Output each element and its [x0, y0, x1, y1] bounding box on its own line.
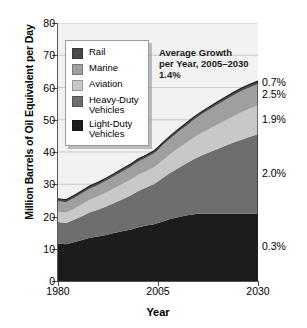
- legend-item-label: Heavy-Duty Vehicles: [89, 95, 139, 115]
- legend-item-label: Rail: [89, 47, 105, 57]
- chart-legend: RailMarineAviationHeavy-Duty VehiclesLig…: [65, 40, 149, 146]
- legend-item: Light-Duty Vehicles: [72, 119, 139, 139]
- growth-rate-label: 1.9%: [262, 114, 286, 125]
- y-tick-label: 20: [29, 212, 55, 222]
- x-tick-label: 1980: [36, 286, 80, 297]
- legend-item-label: Marine: [89, 63, 118, 73]
- legend-item: Aviation: [72, 79, 139, 91]
- legend-swatch-icon: [72, 80, 83, 91]
- legend-swatch-icon: [72, 120, 83, 131]
- growth-rate-label: 0.7%: [262, 77, 286, 88]
- y-tick-label: 50: [29, 115, 55, 125]
- legend-item-label: Light-Duty Vehicles: [89, 119, 132, 139]
- x-tick-label: 2030: [236, 286, 280, 297]
- legend-item: Heavy-Duty Vehicles: [72, 95, 139, 115]
- growth-rate-label: 2.0%: [262, 168, 286, 179]
- growth-rate-label: 2.5%: [262, 89, 286, 100]
- y-tick-label: 80: [29, 18, 55, 28]
- x-tick-label: 2005: [136, 286, 180, 297]
- legend-swatch-icon: [72, 96, 83, 107]
- growth-annotation: Average Growth per Year, 2005–2030 1.4%: [159, 47, 249, 80]
- chart-figure: Million Barrels of Oil Equivalent per Da…: [0, 0, 307, 328]
- legend-item-label: Aviation: [89, 79, 123, 89]
- y-tick-label: 30: [29, 179, 55, 189]
- y-tick-label: 10: [29, 244, 55, 254]
- legend-swatch-icon: [72, 64, 83, 75]
- y-tick-label: 70: [29, 50, 55, 60]
- legend-swatch-icon: [72, 48, 83, 59]
- legend-item: Marine: [72, 63, 139, 75]
- growth-rate-label: 0.3%: [262, 241, 286, 252]
- y-tick-label: 60: [29, 83, 55, 93]
- x-axis-title: Year: [58, 306, 258, 318]
- y-tick-label: 40: [29, 147, 55, 157]
- legend-item: Rail: [72, 47, 139, 59]
